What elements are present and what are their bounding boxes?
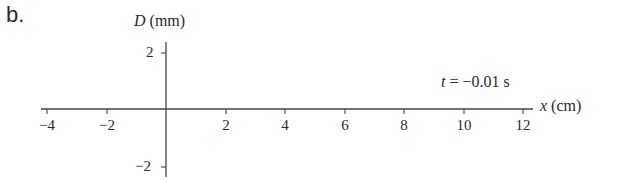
x-axis-unit: (cm) (547, 97, 581, 114)
y-axis-unit: (mm) (146, 12, 186, 29)
x-tick-label: 10 (457, 117, 472, 134)
x-tick-label: −2 (99, 117, 115, 134)
x-tick-label: −4 (39, 117, 55, 134)
time-annotation: t = −0.01 s (441, 73, 510, 91)
x-ticks (47, 109, 523, 114)
x-axis-label: x (cm) (540, 97, 581, 115)
x-tick-label: 6 (341, 117, 349, 134)
x-tick-label: 8 (400, 117, 408, 134)
x-tick-label: 12 (516, 117, 531, 134)
chart-axes (0, 0, 620, 180)
y-axis-label: D (mm) (134, 12, 185, 30)
x-tick-label: 2 (222, 117, 230, 134)
x-tick-label: 4 (281, 117, 289, 134)
y-tick-label: −2 (135, 158, 151, 175)
time-value: = −0.01 s (445, 73, 509, 90)
y-axis-var: D (134, 12, 146, 29)
y-ticks (161, 53, 166, 167)
y-tick-label: 2 (146, 44, 154, 61)
